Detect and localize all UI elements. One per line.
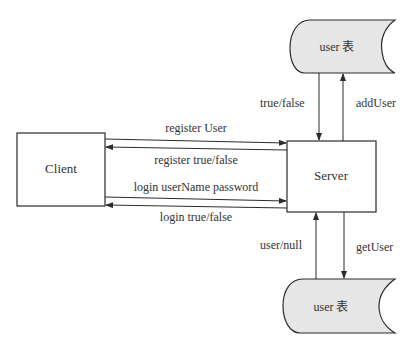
bottom-db-request-label: getUser xyxy=(356,240,393,254)
server-label: Server xyxy=(314,169,348,183)
client-label: Client xyxy=(45,162,77,176)
register-request-arrow xyxy=(105,139,286,143)
login-response-label: login true/false xyxy=(160,210,232,224)
register-response-label: register true/false xyxy=(154,153,238,167)
register-request-label: register User xyxy=(165,121,227,135)
login-response-arrow xyxy=(106,205,287,208)
top-db-response-label: true/false xyxy=(260,96,305,110)
top-db-request-label: addUser xyxy=(356,96,396,110)
login-request-label: login userName password xyxy=(134,180,259,194)
db-bottom-label: user 表 xyxy=(314,300,349,314)
db-top-label: user 表 xyxy=(320,40,355,54)
register-response-arrow xyxy=(106,147,287,150)
bottom-db-response-label: user/null xyxy=(260,238,302,252)
login-request-arrow xyxy=(105,197,286,201)
